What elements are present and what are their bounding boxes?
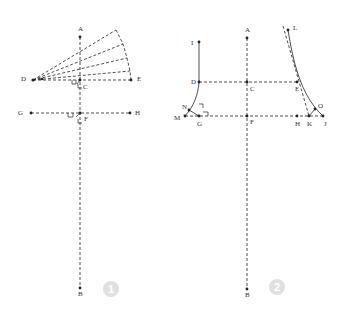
right-angle-marker [199,104,203,108]
label-h: H [295,120,300,128]
point-g [30,112,33,115]
fan-arc [116,30,131,80]
label-o: O [318,102,323,110]
right-angle-marker [203,112,208,116]
point-c [246,81,249,84]
point-f [246,115,249,118]
point-k [308,115,311,118]
point-d [198,81,201,84]
figure-1-badge: 1 [103,281,119,297]
label-l: L [293,24,297,32]
label-b: B [245,291,250,299]
label-i: I [191,39,194,47]
fan-line-4 [33,71,130,80]
fan-line-1 [33,30,116,80]
label-e: E [137,75,141,83]
point-e [130,79,133,82]
point-o [314,108,317,111]
diagram-canvas: A D C E G F H B 1 [0,0,346,312]
figure-2-lines [185,26,323,289]
label-f: F [84,115,88,123]
figure-2-labels: I A L D C E N M G F H K O J B [174,24,327,299]
point-h [296,115,299,118]
point-g [198,115,201,118]
point-h [129,112,132,115]
right-angle-marker [72,80,76,84]
label-k: K [307,120,312,128]
label-j: J [324,120,327,128]
label-c: C [250,85,255,93]
figure-2-badge: 2 [269,279,285,295]
label-b: B [78,290,83,298]
label-g: G [197,120,202,128]
point-a [79,36,82,39]
fan-line-2 [33,44,123,80]
label-a: A [78,25,83,33]
badge-number: 2 [274,281,280,293]
point-d2 [41,78,43,80]
label-m: M [174,114,181,122]
line-tangent [283,26,309,116]
point-m [184,115,187,118]
figure-1-lines [31,30,131,288]
curve-dm [185,82,199,116]
point-a [246,37,249,40]
label-d: D [21,75,26,83]
figure-1-right-angles [68,80,82,123]
point-f [79,112,82,115]
point-l [287,29,290,32]
label-f: F [250,118,254,126]
figure-2-right-angles [199,104,208,116]
point-i [198,41,201,44]
label-c: C [83,83,88,91]
right-angle-marker [68,113,73,117]
figure-1-points [30,36,133,290]
label-h: H [135,109,140,117]
point-c [79,79,82,82]
badge-number: 1 [108,283,114,295]
point-e [296,81,299,84]
figure-2-points [184,29,325,291]
point-j [322,115,325,118]
label-e: E [295,85,299,93]
label-a: A [245,26,250,34]
point-d [31,78,34,81]
point-n [188,109,191,112]
label-d: D [191,78,196,86]
label-n: N [182,103,187,111]
label-g: G [18,109,23,117]
point-b [79,287,82,290]
point-b [246,288,249,291]
line-ng [189,110,199,116]
